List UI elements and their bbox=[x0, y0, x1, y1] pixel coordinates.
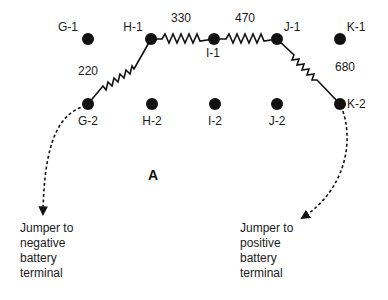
terminal-label-k-2: K-2 bbox=[347, 97, 366, 111]
resistor-value-220: 220 bbox=[78, 64, 98, 78]
resistor-value-labels: 220330470680 bbox=[78, 11, 355, 78]
resistor-value-470: 470 bbox=[235, 11, 255, 25]
terminal-label-h-1: H-1 bbox=[123, 20, 143, 34]
terminal-label-k-1: K-1 bbox=[347, 20, 366, 34]
resistor-330-zigzag bbox=[151, 34, 214, 43]
terminal-label-g-2: G-2 bbox=[78, 114, 98, 128]
terminal-dot-j-1 bbox=[271, 33, 283, 45]
figure-label: A bbox=[148, 167, 158, 183]
terminal-label-j-2: J-2 bbox=[269, 114, 286, 128]
positive-jumper-note: Jumper to positive battery terminal bbox=[240, 221, 293, 281]
resistor-value-680: 680 bbox=[335, 60, 355, 74]
terminal-dot-k-2 bbox=[334, 98, 346, 110]
terminal-dot-h-1 bbox=[145, 33, 157, 45]
terminal-label-h-2: H-2 bbox=[142, 114, 162, 128]
jumper-positive-wire bbox=[302, 106, 347, 218]
terminal-label-j-1: J-1 bbox=[284, 20, 301, 34]
terminal-dot-g-2 bbox=[82, 98, 94, 110]
terminal-dot-j-2 bbox=[271, 98, 283, 110]
terminal-label-i-2: I-2 bbox=[208, 114, 222, 128]
terminal-dot-i-2 bbox=[209, 98, 221, 110]
terminal-dot-i-1 bbox=[208, 33, 220, 45]
terminal-dot-k-1 bbox=[334, 33, 346, 45]
resistor-680-zigzag bbox=[277, 39, 340, 104]
terminal-dot-h-2 bbox=[146, 98, 158, 110]
terminal-label-i-1: I-1 bbox=[206, 46, 220, 60]
resistor-470-zigzag bbox=[214, 34, 277, 43]
terminal-dot-g-1 bbox=[82, 33, 94, 45]
negative-jumper-note: Jumper to negative battery terminal bbox=[20, 221, 73, 281]
resistor-value-330: 330 bbox=[171, 11, 191, 25]
terminal-dots bbox=[82, 33, 346, 110]
terminal-label-g-1: G-1 bbox=[58, 20, 78, 34]
